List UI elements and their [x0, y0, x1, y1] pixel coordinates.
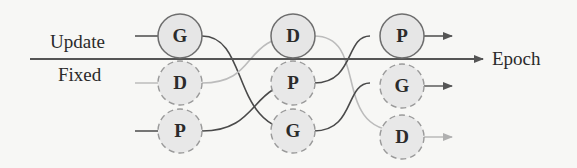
epoch-label: Epoch	[492, 48, 541, 70]
node-g-fixed-3: G	[380, 64, 424, 108]
node-p-fixed-2: P	[271, 61, 315, 105]
svg-text:P: P	[174, 120, 186, 141]
node-p-update: P	[380, 14, 424, 58]
svg-text:P: P	[287, 72, 299, 93]
node-d-fixed-3: D	[380, 115, 424, 159]
svg-text:G: G	[173, 25, 188, 46]
node-d-update: D	[271, 14, 315, 58]
svg-text:G: G	[286, 120, 301, 141]
svg-text:P: P	[396, 25, 408, 46]
node-g-fixed-2: G	[271, 109, 315, 153]
node-g-update: G	[158, 14, 202, 58]
node-d-fixed: D	[158, 61, 202, 105]
fixed-label: Fixed	[58, 64, 101, 86]
link-g-to-g-2	[314, 83, 370, 131]
svg-text:D: D	[173, 72, 187, 93]
node-p-fixed: P	[158, 109, 202, 153]
update-label: Update	[50, 31, 105, 53]
svg-text:D: D	[395, 126, 409, 147]
svg-text:G: G	[395, 75, 410, 96]
svg-text:D: D	[286, 25, 300, 46]
